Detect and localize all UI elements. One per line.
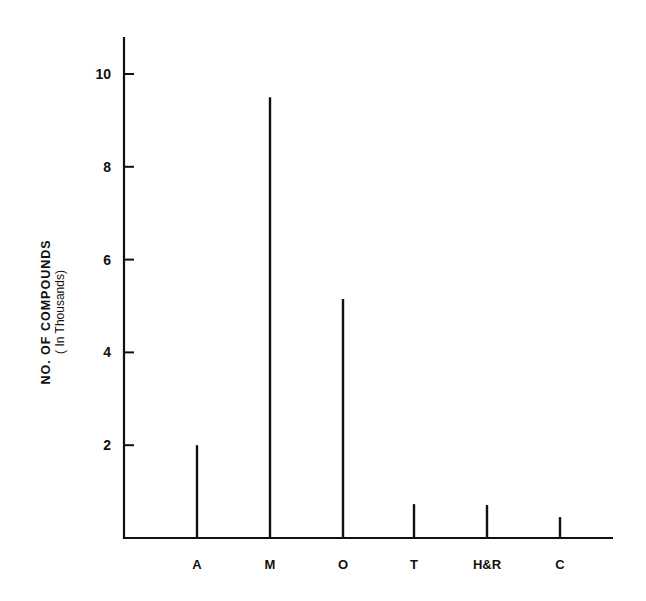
y-axis-label: NO. OF COMPOUNDS ( In Thousands): [39, 239, 67, 384]
y-tick-label: 6: [103, 252, 111, 268]
y-tick-label: 4: [103, 344, 111, 360]
x-tick-labels: AMOTH&RC: [192, 557, 565, 572]
x-tick-label: C: [555, 557, 565, 572]
x-tick-label: H&R: [473, 557, 502, 572]
y-tick-label: 8: [103, 159, 111, 175]
x-tick-label: O: [338, 557, 348, 572]
x-tick-label: T: [410, 557, 418, 572]
y-axis-title: NO. OF COMPOUNDS: [39, 239, 53, 384]
bar-chart: NO. OF COMPOUNDS ( In Thousands) 246810 …: [0, 0, 646, 601]
y-tick-label: 2: [103, 437, 111, 453]
bars: [197, 97, 560, 538]
x-tick-label: M: [265, 557, 276, 572]
y-ticks: 246810: [95, 66, 134, 453]
y-tick-label: 10: [95, 66, 111, 82]
y-axis-subtitle: ( In Thousands): [53, 270, 67, 354]
x-tick-label: A: [192, 557, 202, 572]
